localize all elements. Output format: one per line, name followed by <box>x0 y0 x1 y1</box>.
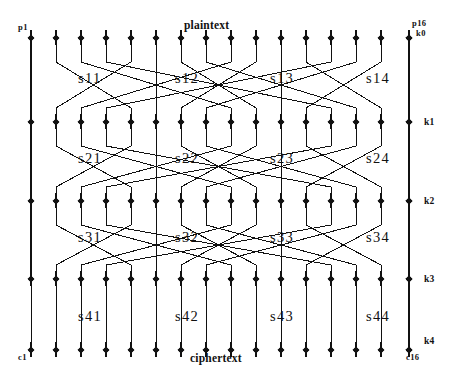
sbox-label-s12: s12 <box>175 70 199 87</box>
key-label-k2: k2 <box>424 196 434 206</box>
sbox-label-s33: s33 <box>270 229 294 246</box>
key-label-k4: k4 <box>424 336 434 346</box>
sbox-label-s13: s13 <box>270 70 294 87</box>
sbox-label-s21: s21 <box>78 150 102 167</box>
sbox-label-s11: s11 <box>78 70 102 87</box>
sbox-label-s42: s42 <box>175 308 199 325</box>
sbox-label-s32: s32 <box>175 229 199 246</box>
plaintext-first-bit-label: p1 <box>18 22 28 32</box>
sbox-label-s14: s14 <box>366 70 390 87</box>
plaintext-last-bit-label: p16 <box>412 18 426 28</box>
plaintext-label: plaintext <box>184 19 229 31</box>
sbox-label-s23: s23 <box>270 150 294 167</box>
sbox-label-s43: s43 <box>270 308 294 325</box>
key-label-k3: k3 <box>424 274 434 284</box>
sbox-label-s24: s24 <box>366 150 390 167</box>
spn-cipher-diagram: p1 plaintext p16 k0 k1 k2 k3 k4 c1 ciphe… <box>0 0 458 378</box>
sbox-label-s44: s44 <box>366 308 390 325</box>
ciphertext-first-bit-label: c1 <box>18 352 27 362</box>
key-label-k1: k1 <box>424 117 434 127</box>
sbox-label-s22: s22 <box>175 150 199 167</box>
ciphertext-label: ciphertext <box>190 352 242 364</box>
sbox-label-s41: s41 <box>78 308 102 325</box>
ciphertext-last-bit-label: c16 <box>406 352 419 362</box>
sbox-label-s31: s31 <box>78 229 102 246</box>
sbox-label-s34: s34 <box>366 229 390 246</box>
key-label-k0: k0 <box>416 28 426 38</box>
